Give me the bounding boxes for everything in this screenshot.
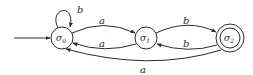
edge-s2-s0 bbox=[66, 49, 221, 61]
edge-s0-s0 bbox=[56, 11, 71, 28]
edge-label-s0-s1: a bbox=[99, 15, 105, 26]
state-s0-subscript: 0 bbox=[62, 37, 66, 44]
state-s1: σ1 bbox=[135, 27, 157, 49]
edge-s0-s1 bbox=[72, 26, 135, 34]
edge-label-s0-s0: b bbox=[77, 4, 83, 15]
edge-label-s2-s1: b bbox=[183, 38, 189, 49]
state-s0: σ0 bbox=[51, 27, 73, 49]
state-s2-subscript: 2 bbox=[229, 37, 234, 44]
edge-label-s1-s2: b bbox=[183, 15, 189, 26]
edge-s1-s2 bbox=[156, 25, 216, 33]
state-s1-subscript: 1 bbox=[146, 37, 150, 44]
edge-label-s2-s0: a bbox=[140, 64, 146, 75]
edge-label-s1-s0: a bbox=[99, 38, 105, 49]
finite-automaton-diagram: b a a b b a σ0 σ1 σ2 bbox=[0, 0, 253, 75]
state-s2-accepting: σ2 bbox=[216, 24, 244, 52]
